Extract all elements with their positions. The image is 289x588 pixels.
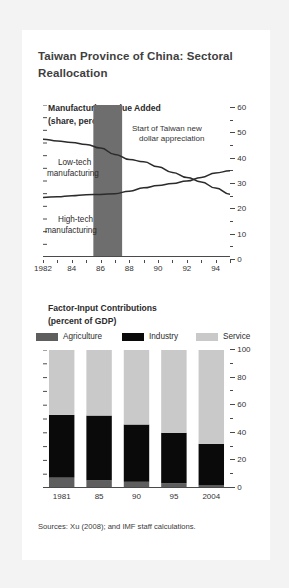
chart-a-y-tick: 20 [230, 204, 246, 213]
chart-a-x-tick: 84 [59, 264, 85, 273]
chart-a-x-tickmark [115, 260, 116, 263]
chart-a-x-tick: 92 [174, 264, 200, 273]
chart-a-y-tick [230, 242, 233, 251]
chart-a-x-tick: 88 [116, 264, 142, 273]
figure-page: Taiwan Province of China: Sectoral Reall… [0, 0, 289, 588]
chart-a-y-tick [230, 217, 233, 226]
chart-b-header: Factor-Input Contributions (percent of G… [48, 302, 248, 329]
chart-a-y-tick: 30 [230, 179, 246, 188]
high-tech-label-line1: High-tech [45, 215, 123, 226]
chart-a-y-tick: 10 [230, 230, 246, 239]
chart-a-x-tick: 1982 [30, 264, 56, 273]
high-tech-label-line2: manufacturing [45, 226, 123, 237]
chart-b-y-tick [230, 442, 233, 451]
chart-a-y-tick [230, 141, 233, 150]
chart-b-x-tick: 2004 [193, 492, 229, 501]
chart-b-x-tick: 85 [81, 492, 117, 501]
chart-a-x-tick: 90 [145, 264, 171, 273]
legend-item-agriculture: Agriculture [36, 332, 102, 341]
chart-b-y-tick [230, 359, 233, 368]
low-tech-label-line1: Low-tech [47, 158, 121, 169]
chart-a-x-axis: 1982848688909294 [43, 260, 243, 276]
sources-note: Sources: Xu (2008); and IMF staff calcul… [38, 522, 258, 531]
chart-b-x-tick: 90 [119, 492, 155, 501]
legend-swatch-agriculture-icon [36, 333, 58, 341]
legend-swatch-service-icon [196, 333, 218, 341]
chart-a-x-tickmark [201, 260, 202, 263]
chart-a-x-tickmark [172, 260, 173, 263]
chart-a-x-tickmark [129, 260, 130, 263]
chart-a-x-tickmark [43, 260, 44, 263]
chart-a-y-axis: 0 10 20 30 40 50 60 [230, 105, 270, 261]
legend-label: Industry [149, 332, 178, 341]
chart-b-y-tick: 80 [230, 373, 246, 382]
band-annotation-line1: Start of Taiwan new [132, 124, 228, 134]
chart-a-y-tick [230, 166, 233, 175]
chart-manufacturing-value-added: Manufacturing Value Added (share, percen… [22, 102, 270, 292]
page-title: Taiwan Province of China: Sectoral Reall… [38, 48, 256, 81]
legend-item-industry: Industry [122, 332, 178, 341]
chart-a-x-tickmark [101, 260, 102, 263]
chart-a-y-tick: 40 [230, 154, 246, 163]
chart-a-x-tickmark [57, 260, 58, 263]
chart-b-legend: AgricultureIndustryService [36, 332, 260, 344]
chart-b-y-tick: 60 [230, 400, 246, 409]
chart-b-y-tick [230, 414, 233, 423]
legend-label: Service [223, 332, 250, 341]
chart-a-y-tick [230, 192, 233, 201]
chart-b-y-axis: 0 20 40 60 80 100 [230, 350, 270, 492]
low-tech-series-label: Low-tech manufacturing [47, 158, 121, 179]
chart-b-x-tick: 95 [156, 492, 192, 501]
chart-b-plot-area [43, 350, 230, 488]
chart-a-x-tick: 86 [88, 264, 114, 273]
low-tech-label-line2: manufacturing [47, 169, 121, 180]
chart-a-x-tickmark [72, 260, 73, 263]
band-annotation: Start of Taiwan new dollar appreciation [132, 124, 228, 145]
chart-b-y-tick: 20 [230, 455, 246, 464]
chart-b-y-tick [230, 386, 233, 395]
chart-a-x-tick: 94 [203, 264, 229, 273]
chart-b-x-axis: 19818590952004 [43, 490, 243, 504]
chart-b-x-tick: 1981 [44, 492, 80, 501]
chart-a-x-tickmark [144, 260, 145, 263]
legend-label: Agriculture [63, 332, 102, 341]
chart-a-y-tick: 50 [230, 128, 246, 137]
chart-factor-input-contributions: Factor-Input Contributions (percent of G… [22, 302, 270, 540]
chart-a-x-tickmark [158, 260, 159, 263]
high-tech-series-label: High-tech manufacturing [45, 215, 123, 236]
legend-swatch-industry-icon [122, 333, 144, 341]
chart-a-y-tick: 60 [230, 103, 246, 112]
figure-card: Taiwan Province of China: Sectoral Reall… [22, 30, 270, 560]
chart-a-y-tick [230, 116, 233, 125]
chart-b-y-tick: 100 [230, 345, 251, 354]
chart-b-y-tick [230, 469, 233, 478]
chart-a-x-tickmark [216, 260, 217, 263]
chart-a-x-tickmark [230, 260, 231, 263]
chart-b-subtitle: (percent of GDP) [48, 315, 248, 328]
chart-b-title: Factor-Input Contributions [48, 302, 248, 315]
band-annotation-line2: dollar appreciation [132, 134, 228, 144]
chart-b-y-tick: 40 [230, 428, 246, 437]
legend-item-service: Service [196, 332, 250, 341]
chart-a-x-tickmark [86, 260, 87, 263]
chart-a-x-tickmark [187, 260, 188, 263]
